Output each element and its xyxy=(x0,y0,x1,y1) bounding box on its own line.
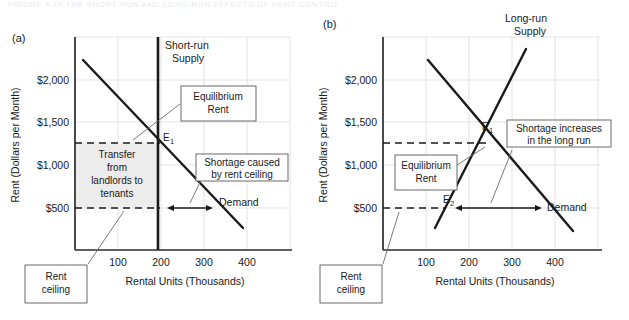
shortage-line2: in the long run xyxy=(527,135,590,146)
panel-b-label: (b) xyxy=(323,18,336,30)
demand-label: Demand xyxy=(219,196,259,208)
equilibrium-point-e1-label: E 1 xyxy=(163,132,174,146)
rent-ceiling-line2: ceiling xyxy=(42,284,70,295)
shortage-double-arrow xyxy=(455,205,542,211)
x-tick-200: 200 xyxy=(152,256,170,268)
transfer-line1: Transfer xyxy=(99,149,137,160)
e2-letter: E xyxy=(443,194,450,205)
rent-ceiling-line1: Rent xyxy=(45,271,66,282)
x-axis-title: Rental Units (Thousands) xyxy=(125,275,244,287)
equilibrium-rent-callout[interactable]: Equilibrium Rent xyxy=(395,147,485,190)
panel-a-label: (a) xyxy=(12,32,25,44)
x-axis-tick-labels: 100 200 300 400 xyxy=(109,256,256,268)
short-run-supply-label: Short-run Supply xyxy=(165,39,209,64)
rent-ceiling-line2: ceiling xyxy=(337,284,365,295)
y-tick-500: $500 xyxy=(46,202,70,214)
e1-letter: E xyxy=(163,132,170,143)
shortage-leader-line xyxy=(491,150,512,203)
shortage-callout[interactable]: Shortage increases in the long run xyxy=(491,120,611,203)
supply-label-line1: Short-run xyxy=(165,39,209,51)
supply-label-line1: Long-run xyxy=(505,12,547,24)
x-tick-100: 100 xyxy=(109,256,127,268)
y-tick-500: $500 xyxy=(354,202,378,214)
shortage-line2: by rent ceiling xyxy=(211,169,273,180)
y-tick-1500: $1,500 xyxy=(37,116,69,128)
y-axis-tick-labels: $2,000 $1,500 $1,000 $500 xyxy=(37,74,69,214)
shortage-double-arrow xyxy=(167,205,213,211)
x-tick-400: 400 xyxy=(546,256,564,268)
rent-ceiling-line1: Rent xyxy=(340,271,361,282)
demand-label: Demand xyxy=(547,201,587,213)
figure-rent-control: FIGURE 4-10 THE SHORT-RUN AND LONG-RUN E… xyxy=(0,0,629,320)
e1-subscript: 1 xyxy=(170,137,174,146)
panel-b-long-run: (b) Rent (Dollars per Month) Rental Unit… xyxy=(315,0,629,320)
equilibrium-rent-line2: Rent xyxy=(415,173,436,184)
x-tick-200: 200 xyxy=(460,256,478,268)
x-tick-300: 300 xyxy=(195,256,213,268)
long-run-supply-label: Long-run Supply xyxy=(505,12,547,37)
equilibrium-rent-line2: Rent xyxy=(207,104,228,115)
y-tick-1500: $1,500 xyxy=(345,116,377,128)
equilibrium-rent-line1: Equilibrium xyxy=(193,91,242,102)
equilibrium-rent-leader-line xyxy=(457,147,485,165)
x-tick-400: 400 xyxy=(238,256,256,268)
e1-subscript: 1 xyxy=(489,126,493,135)
y-axis-title: Rent (Dollars per Month) xyxy=(9,88,21,203)
equilibrium-rent-line1: Equilibrium xyxy=(401,160,450,171)
y-axis-title: Rent (Dollars per Month) xyxy=(317,88,329,203)
panel-a-short-run: (a) Rent (Dollars per Month) Rental Unit… xyxy=(0,0,314,320)
y-tick-2000: $2,000 xyxy=(37,74,69,86)
x-axis-tick-labels: 100 200 300 400 xyxy=(417,256,564,268)
y-tick-2000: $2,000 xyxy=(345,74,377,86)
shortage-line1: Shortage increases xyxy=(516,123,602,134)
panel-a-chart: (a) Rent (Dollars per Month) Rental Unit… xyxy=(0,0,314,320)
x-axis-title: Rental Units (Thousands) xyxy=(435,275,554,287)
y-tick-1000: $1,000 xyxy=(37,159,69,171)
y-axis-tick-labels: $2,000 $1,500 $1,000 $500 xyxy=(345,74,377,214)
transfer-line3: landlords to xyxy=(91,175,143,186)
rent-ceiling-callout[interactable]: Rent ceiling xyxy=(320,212,399,303)
transfer-line2: from xyxy=(107,162,127,173)
y-tick-1000: $1,000 xyxy=(345,159,377,171)
x-tick-300: 300 xyxy=(503,256,521,268)
rent-ceiling-leader-line xyxy=(383,212,399,264)
transfer-line4: tenants xyxy=(101,188,134,199)
supply-label-line2: Supply xyxy=(514,25,547,37)
e2-subscript: 2 xyxy=(450,199,454,208)
supply-label-line2: Supply xyxy=(172,52,205,64)
x-tick-100: 100 xyxy=(417,256,435,268)
shortage-line1: Shortage caused xyxy=(204,157,280,168)
panel-b-chart: (b) Rent (Dollars per Month) Rental Unit… xyxy=(315,0,629,320)
e1-letter: E xyxy=(482,121,489,132)
